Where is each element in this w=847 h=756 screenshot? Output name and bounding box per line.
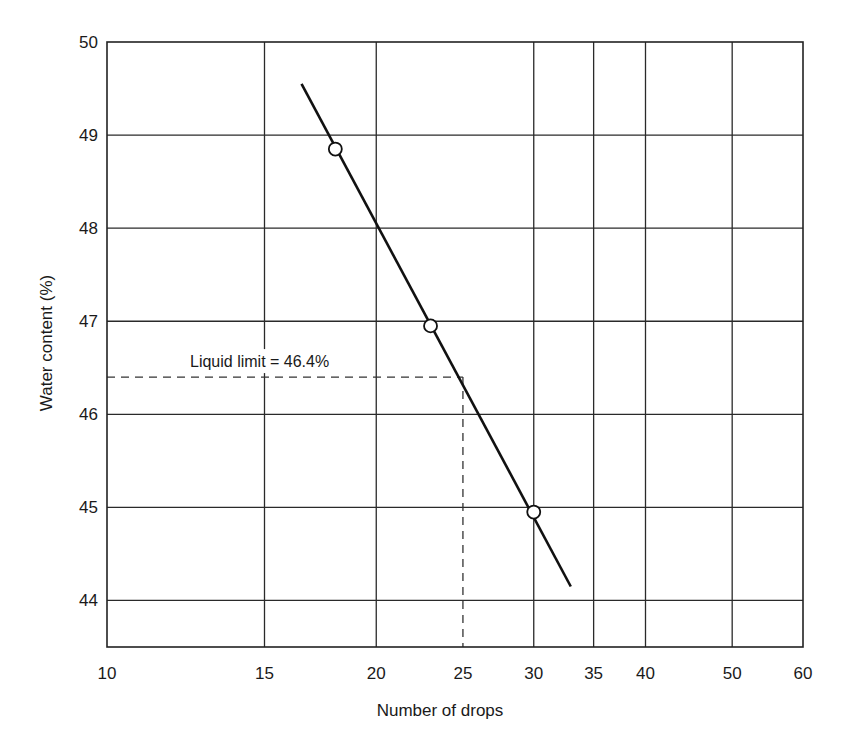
y-axis-label: Water content (%) [37, 275, 56, 411]
liquid-limit-annotation: Liquid limit = 46.4% [190, 353, 329, 370]
y-tick-label: 48 [79, 219, 98, 238]
data-points [329, 143, 540, 519]
x-tick-label: 50 [723, 664, 742, 683]
x-tick-label: 15 [255, 664, 274, 683]
x-tick-labels: 101520253035405060 [98, 664, 813, 683]
y-tick-label: 44 [79, 591, 98, 610]
data-point [424, 319, 437, 332]
liquid-limit-reference-lines [107, 377, 463, 647]
x-axis-label: Number of drops [377, 701, 504, 720]
x-tick-label: 10 [98, 664, 117, 683]
plot-frame [107, 42, 803, 647]
x-tick-label: 20 [367, 664, 386, 683]
y-tick-label: 45 [79, 498, 98, 517]
liquid-limit-chart: Liquid limit = 46.4% 101520253035405060 … [0, 0, 847, 756]
x-tick-label: 25 [453, 664, 472, 683]
y-tick-label: 47 [79, 312, 98, 331]
data-point [527, 506, 540, 519]
x-tick-label: 60 [794, 664, 813, 683]
x-tick-label: 30 [524, 664, 543, 683]
y-tick-labels: 44454647484950 [79, 33, 98, 610]
grid-lines [107, 42, 803, 647]
data-point [329, 143, 342, 156]
x-tick-label: 40 [636, 664, 655, 683]
y-tick-label: 50 [79, 33, 98, 52]
y-tick-label: 49 [79, 126, 98, 145]
y-tick-label: 46 [79, 405, 98, 424]
x-tick-label: 35 [584, 664, 603, 683]
